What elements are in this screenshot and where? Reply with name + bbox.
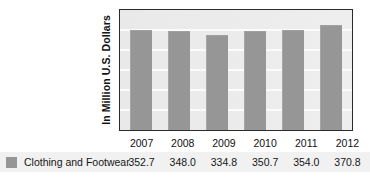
x-axis-label: 2007 (121, 137, 162, 149)
plot-area (119, 9, 353, 131)
value-cell: 354.0 (286, 156, 327, 168)
bar-slot (160, 10, 198, 130)
series-values-row: Clothing and Footwear 352.7 348.0 334.8 … (0, 152, 370, 172)
value-cell: 350.7 (245, 156, 286, 168)
x-axis-label: 2012 (327, 137, 368, 149)
value-cell: 334.8 (203, 156, 244, 168)
x-axis-labels-row: 2007 2008 2009 2010 2011 2012 (0, 133, 370, 152)
bar-slot (312, 10, 350, 130)
x-axis-label: 2010 (245, 137, 286, 149)
bar-slot (274, 10, 312, 130)
data-table: 2007 2008 2009 2010 2011 2012 Clothing a… (0, 133, 370, 177)
bar-2010 (244, 31, 267, 130)
bar-2012 (320, 25, 343, 130)
bar-2009 (206, 35, 229, 130)
bar-slot (198, 10, 236, 130)
y-axis-title: In Million U.S. Dollars (96, 9, 116, 131)
legend-entry: Clothing and Footwear (0, 156, 119, 168)
bar-2007 (130, 30, 153, 130)
bar-group (120, 10, 352, 130)
x-axis-label: 2008 (162, 137, 203, 149)
chart-screenshot: In Million U.S. Dollars (0, 0, 370, 181)
legend-label: Clothing and Footwear (24, 156, 130, 168)
y-axis-title-text: In Million U.S. Dollars (100, 15, 112, 125)
x-axis-label: 2009 (203, 137, 244, 149)
x-axis-label: 2011 (286, 137, 327, 149)
bar-2011 (282, 30, 305, 130)
legend-swatch-icon (6, 157, 17, 168)
bar-slot (236, 10, 274, 130)
value-cell: 348.0 (162, 156, 203, 168)
value-cells: 352.7 348.0 334.8 350.7 354.0 370.8 (119, 156, 370, 168)
x-axis-label-cells: 2007 2008 2009 2010 2011 2012 (119, 137, 370, 149)
bar-slot (122, 10, 160, 130)
bar-2008 (168, 31, 191, 130)
value-cell: 370.8 (327, 156, 368, 168)
value-cell: 352.7 (121, 156, 162, 168)
